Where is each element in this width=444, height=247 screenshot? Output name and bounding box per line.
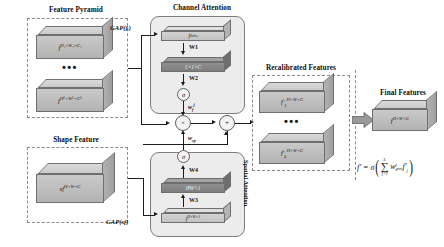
formula-weight: wjgrm — [390, 162, 402, 171]
pyramid-to-mul-arrow — [166, 121, 170, 125]
shape-feature-block-label: sfH×W×C — [60, 184, 81, 192]
diagram-canvas: Feature Pyramid fH₁×W₁×C₁ ••• fHᴸ×Wᴸ×Cᴸ … — [0, 0, 444, 247]
w1-arrow-head — [181, 51, 185, 55]
pyramid-to-mul-line — [141, 124, 167, 125]
formula-term: f′j — [402, 162, 407, 173]
add-operator: + — [219, 115, 235, 131]
spatial-slab-input-label: fH×W×1 — [186, 215, 201, 222]
channel-sigma-circle: σ — [177, 88, 190, 101]
mul-to-add-line — [191, 123, 213, 124]
channel-attention-title: Channel Attention — [152, 4, 252, 12]
pyramid-bus-vline — [141, 35, 142, 125]
mul-to-add-arrow — [212, 120, 216, 124]
w3-arrow-head — [181, 194, 185, 198]
channel-weight-output-label: wfj — [188, 102, 195, 112]
w3-arrow-line — [183, 197, 184, 207]
spatial-out-line — [183, 133, 184, 150]
pyramid-block-L: fHᴸ×Wᴸ×Cᴸ — [36, 79, 120, 112]
w2-arrow-head — [181, 82, 185, 86]
formula-close-paren: ) — [409, 158, 413, 176]
channel-in-line — [141, 35, 155, 36]
w4-label: W4 — [189, 167, 198, 173]
formula-open-paren: ( — [375, 158, 379, 176]
pyramid-block-1-label: fH₁×W₁×C₁ — [58, 43, 81, 51]
channel-slab-input-label: f¹ˣ¹ˣᶜ — [188, 33, 197, 39]
add-out-line — [235, 123, 251, 124]
final-formula: f′ = σ ( L ∑ j=1 wjgrm f′j ) — [357, 158, 414, 176]
recalibrated-ellipsis: ••• — [284, 116, 300, 127]
spatial-slab-hidden: HW×1 — [161, 178, 237, 193]
w2-label: W2 — [189, 75, 198, 81]
sum-lower-limit: j=1 — [382, 172, 388, 176]
channel-sigma-label: σ — [182, 91, 185, 98]
multiply-operator: × — [175, 115, 191, 131]
channel-slab-input: f¹ˣ¹ˣᶜ — [161, 26, 237, 41]
gap-f-label: GAP(fᵢ) — [110, 24, 131, 31]
spatial-in-arrow — [154, 212, 158, 216]
spatial-slab-hidden-label: HW×1 — [186, 185, 201, 191]
w3-label: W3 — [189, 197, 198, 203]
recalibrated-title: Recalibrated Features — [249, 64, 353, 72]
pyramid-out-line — [128, 68, 142, 69]
add-symbol: + — [225, 119, 229, 127]
channel-in-arrow — [154, 32, 158, 36]
shape-bus-vline — [143, 178, 144, 216]
w4-arrow-head — [181, 165, 185, 169]
spatial-attention-title: Spatial Attention — [243, 160, 250, 206]
channel-slab-hidden: 1×1×C — [161, 57, 237, 72]
w4-arrow-line — [183, 168, 184, 178]
final-features-block-label: fH×W×C — [391, 116, 409, 124]
feature-pyramid-title: Feature Pyramid — [33, 6, 119, 14]
formula-equals: = — [361, 163, 370, 172]
recalibrated-block-1: f′1H×W×C — [259, 82, 343, 113]
pyramid-block-L-label: fHᴸ×Wᴸ×Cᴸ — [58, 96, 82, 104]
gap-sf-label: GAP(sf) — [106, 218, 128, 225]
spatial-sigma-label: σ — [182, 153, 185, 160]
recalibrated-block-1-label: f′1H×W×C — [281, 97, 303, 108]
final-section-divider — [355, 70, 356, 180]
pyramid-ellipsis: ••• — [62, 62, 78, 73]
shape-feature-block: sfH×W×C — [36, 163, 120, 203]
spatial-slab-input: fH×W×1 — [161, 208, 237, 223]
shape-feature-title: Shape Feature — [33, 136, 119, 144]
multiply-symbol: × — [181, 119, 185, 127]
formula-weight-scripts: jgrm — [396, 163, 403, 172]
shape-out-line — [128, 178, 144, 179]
formula-summation: L ∑ j=1 — [381, 158, 389, 176]
channel-slab-hidden-label: 1×1×C — [185, 64, 201, 70]
skip-line-horizontal — [143, 144, 228, 145]
spatial-attention-module — [150, 152, 245, 237]
skip-arrow — [224, 131, 228, 135]
recalibrated-block-L-label: f′LH×W×C — [281, 148, 303, 159]
spatial-weight-output-label: wsp — [188, 135, 196, 143]
spatial-sigma-circle: σ — [177, 150, 190, 163]
recalibrated-block-L: f′LH×W×C — [259, 133, 343, 164]
pyramid-block-1: fH₁×W₁×C₁ — [36, 26, 120, 59]
final-features-block: fH×W×C — [372, 100, 442, 131]
formula-sigma: σ — [370, 163, 374, 172]
w1-label: W1 — [189, 44, 198, 50]
